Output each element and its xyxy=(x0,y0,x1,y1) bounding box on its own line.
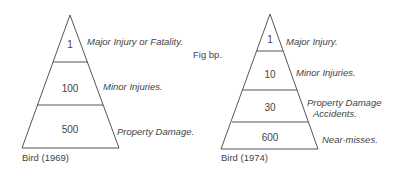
tier-label: Major Injury or Fatality. xyxy=(87,36,183,47)
figure-label: Fig bp. xyxy=(193,49,222,60)
tier-value: 500 xyxy=(62,124,79,135)
tier-label: Major Injury. xyxy=(286,36,338,47)
tier-label: Minor Injuries. xyxy=(103,81,163,92)
tier-value: 30 xyxy=(264,102,276,113)
pyramid-caption: Bird (1974) xyxy=(221,152,268,163)
tier-value: 600 xyxy=(262,132,279,143)
tier-value: 1 xyxy=(267,34,273,45)
pyramid-bird-1969: 1 100 500 Major Injury or Fatality. Mino… xyxy=(22,15,194,163)
tier-value: 10 xyxy=(264,69,276,80)
tier-value: 1 xyxy=(67,39,73,50)
accident-ratio-diagram: 1 100 500 Major Injury or Fatality. Mino… xyxy=(0,0,396,174)
tier-label: Minor Injuries. xyxy=(296,67,356,78)
tier-label-line2: Accidents. xyxy=(312,108,357,119)
tier-label: Near-misses. xyxy=(322,134,378,145)
tier-label: Property Damage xyxy=(307,97,381,108)
pyramid-bird-1974: 1 10 30 600 Major Injury. Minor Injuries… xyxy=(221,14,381,163)
pyramid-caption: Bird (1969) xyxy=(22,152,69,163)
tier-value: 100 xyxy=(62,83,79,94)
tier-label: Property Damage. xyxy=(117,126,194,137)
